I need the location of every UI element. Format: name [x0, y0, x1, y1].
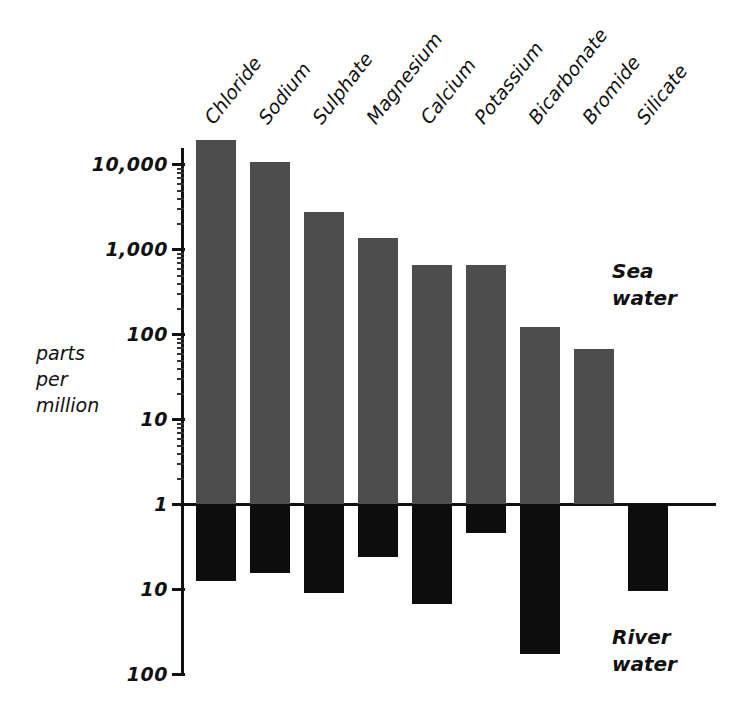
y-minor-tick	[177, 368, 184, 370]
y-minor-tick	[177, 453, 184, 455]
y-minor-tick	[177, 427, 184, 429]
y-minor-tick	[177, 423, 184, 425]
bar-sea-bicarbonate	[520, 327, 560, 504]
y-axis-title-line-3: million	[36, 392, 160, 418]
chart-container: 10,0001,00010010110100 parts per million…	[0, 0, 734, 720]
y-minor-tick	[177, 432, 184, 434]
y-tick-upper-1000-label: 1,000	[58, 238, 168, 260]
y-minor-tick	[177, 253, 184, 255]
y-minor-tick	[177, 393, 184, 395]
chart-column-chloride: Chloride	[190, 0, 244, 720]
legend-sea-water: Sea water	[612, 258, 677, 312]
bar-sea-bromide	[574, 349, 614, 504]
bar-river-calcium	[412, 504, 452, 604]
y-minor-tick	[177, 208, 184, 210]
y-minor-tick	[177, 183, 184, 185]
y-minor-tick	[177, 353, 184, 355]
legend-sea-line-1: Sea	[612, 258, 677, 285]
y-minor-tick	[177, 293, 184, 295]
bar-sea-chloride	[196, 140, 236, 504]
legend-river-line-2: water	[612, 651, 677, 678]
y-minor-tick	[177, 283, 184, 285]
y-minor-tick	[177, 257, 184, 259]
y-axis-title: parts per million	[36, 340, 160, 418]
chart-column-bicarbonate: Bicarbonate	[514, 0, 568, 720]
y-minor-tick	[177, 268, 184, 270]
bar-river-potassium	[466, 504, 506, 533]
bar-river-magnesium	[358, 504, 398, 557]
chart-column-sodium: Sodium	[244, 0, 298, 720]
y-axis-title-line-2: per	[36, 366, 160, 392]
y-minor-tick	[177, 478, 184, 480]
y-minor-tick	[177, 445, 184, 447]
y-minor-tick	[177, 342, 184, 344]
bar-river-silicate	[628, 504, 668, 591]
legend-river-line-1: River	[612, 624, 677, 651]
y-minor-tick	[177, 168, 184, 170]
chart-column-sulphate: Sulphate	[298, 0, 352, 720]
bar-sea-sulphate	[304, 212, 344, 504]
chart-column-bromide: Bromide	[568, 0, 622, 720]
bar-river-sodium	[250, 504, 290, 573]
legend-river-water: River water	[612, 624, 677, 678]
y-minor-tick	[177, 262, 184, 264]
category-label-silicate: Silicate	[632, 60, 692, 128]
y-minor-tick	[177, 275, 184, 277]
y-minor-tick	[177, 177, 184, 179]
chart-column-potassium: Potassium	[460, 0, 514, 720]
y-minor-tick	[177, 172, 184, 174]
y-minor-tick	[177, 378, 184, 380]
bar-sea-potassium	[466, 265, 506, 504]
y-minor-tick	[177, 223, 184, 225]
y-minor-tick	[177, 190, 184, 192]
y-axis-title-line-1: parts	[36, 340, 160, 366]
y-minor-tick	[177, 347, 184, 349]
bar-sea-magnesium	[358, 238, 398, 504]
chart-column-silicate: Silicate	[622, 0, 676, 720]
bar-river-sulphate	[304, 504, 344, 593]
y-minor-tick	[177, 463, 184, 465]
bar-river-chloride	[196, 504, 236, 581]
y-tick-lower-10-label: 10	[58, 578, 168, 600]
y-tick-upper-1-label: 1	[58, 493, 168, 515]
bar-river-bicarbonate	[520, 504, 560, 654]
y-minor-tick	[177, 198, 184, 200]
legend-sea-line-2: water	[612, 285, 677, 312]
y-minor-tick	[177, 308, 184, 310]
plot-area: ChlorideSodiumSulphateMagnesiumCalciumPo…	[184, 0, 724, 720]
y-minor-tick	[177, 438, 184, 440]
bar-sea-sodium	[250, 162, 290, 504]
chart-column-calcium: Calcium	[406, 0, 460, 720]
y-minor-tick	[177, 338, 184, 340]
chart-column-magnesium: Magnesium	[352, 0, 406, 720]
y-tick-lower-100-label: 100	[58, 663, 168, 685]
bar-sea-calcium	[412, 265, 452, 504]
y-tick-upper-10000-label: 10,000	[58, 153, 168, 175]
y-minor-tick	[177, 360, 184, 362]
